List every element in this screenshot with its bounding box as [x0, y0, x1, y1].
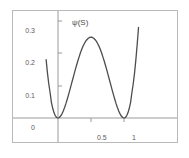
y-tick-label-0: 0 [31, 124, 35, 132]
x-tick-label-1: 1 [132, 134, 136, 142]
potential-curve [46, 27, 138, 118]
x-tick-label-0.5: 0.5 [97, 134, 107, 142]
figure-container: 0.3 0.2 0.1 0 0.5 1 ψ(S) S [0, 0, 189, 158]
tick-marks-group [58, 21, 124, 122]
y-axis-title: ψ(S) [72, 18, 88, 27]
plot-canvas [13, 11, 177, 142]
y-tick-label-0.3: 0.3 [25, 27, 35, 35]
y-tick-label-0.2: 0.2 [25, 59, 35, 67]
plot-frame: 0.3 0.2 0.1 0 0.5 1 ψ(S) S [12, 10, 178, 143]
y-tick-label-0.1: 0.1 [25, 92, 35, 100]
axes-group [13, 11, 177, 142]
